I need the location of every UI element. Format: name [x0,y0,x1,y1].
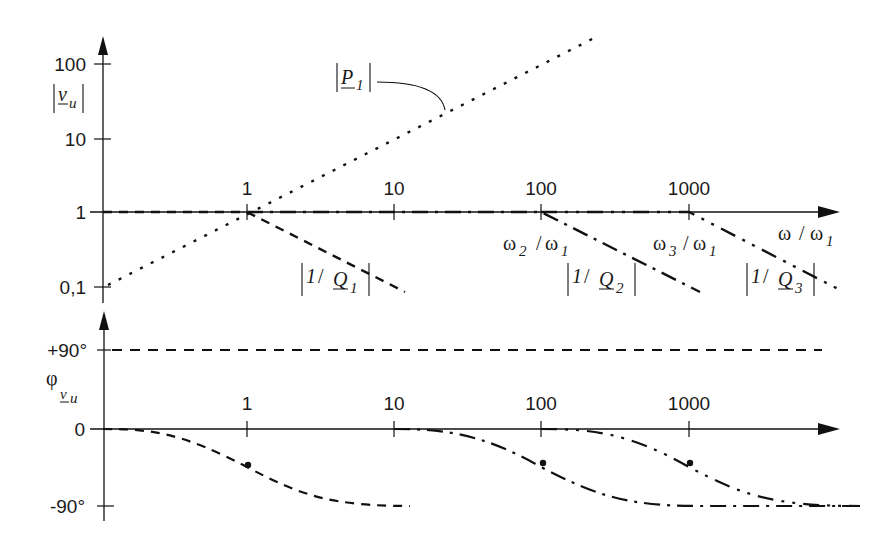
marker-minus45-at-1 [245,462,251,468]
phase-curve-1-over-Q3 [541,429,860,506]
svg-text:ω: ω [503,232,516,254]
svg-text:/: / [763,265,769,287]
phase-tick-label-0: 0 [74,419,85,440]
svg-text:1: 1 [751,265,761,287]
svg-text:1: 1 [350,280,358,296]
magnitude-y-axis-arrow-icon [98,36,108,55]
svg-text:Q: Q [333,268,348,290]
y-tick-label-10: 10 [65,129,86,150]
label-1-over-Q1: 1 / Q 1 [302,263,369,296]
label-omega2-over-omega1: ω 2 / ω 1 [503,232,569,259]
svg-text:2: 2 [519,243,527,259]
svg-text:ω: ω [778,222,791,244]
svg-text:1: 1 [709,243,717,259]
magnitude-x-axis-arrow-icon [818,206,840,218]
marker-minus45-at-1000 [687,460,693,466]
svg-text:Q: Q [778,268,793,290]
phase-x-tick-label-1000: 1000 [668,393,710,414]
svg-text:v: v [60,386,67,402]
phase-x-tick-label-100: 100 [525,393,557,414]
phase-y-label: φ v u [46,367,78,406]
svg-text:ω: ω [545,232,558,254]
svg-text:/: / [683,232,689,254]
svg-text:3: 3 [668,243,677,259]
x-axis-label-omega-over-omega1: ω / ω 1 [778,222,834,249]
label-P1: P 1 [337,63,445,110]
svg-text:P: P [340,66,353,88]
svg-text:u: u [70,390,78,406]
phase-y-axis-arrow-icon [99,311,109,330]
phase-tick-label-plus90: +90° [47,340,87,361]
x-tick-label-100: 100 [525,178,557,199]
label-1-over-Q3: 1 / Q 3 [747,263,814,296]
y-tick-label-0-1: 0,1 [60,277,86,298]
svg-text:3: 3 [794,280,803,296]
svg-text:ω: ω [693,232,706,254]
svg-text:2: 2 [616,280,624,296]
svg-text:1: 1 [572,265,582,287]
svg-text:/: / [799,222,805,244]
svg-text:1: 1 [356,77,364,93]
svg-text:u: u [69,95,77,111]
svg-text:ω: ω [810,222,823,244]
marker-minus45-at-100 [540,460,546,466]
y-tick-label-100: 100 [54,54,86,75]
phase-tick-label-minus90: -90° [50,496,85,517]
phase-x-tick-label-10: 10 [383,393,404,414]
magnitude-y-label: v u [54,83,83,113]
bode-diagram: 100 10 1 0,1 v u 1 10 100 1000 P [0,0,888,544]
phase-curve-1-over-Q1 [103,429,410,506]
svg-text:1: 1 [826,233,834,249]
x-tick-label-10: 10 [383,178,404,199]
label-omega3-over-omega1: ω 3 / ω 1 [653,232,717,259]
x-tick-label-1000: 1000 [668,178,710,199]
phase-x-tick-label-1: 1 [242,393,253,414]
phase-plot: +90° 0 -90° φ v u 1 10 100 1000 [46,311,860,521]
svg-text:φ: φ [46,367,58,390]
svg-text:Q: Q [599,268,614,290]
svg-text:v: v [58,83,67,105]
phase-curve-1-over-Q2 [394,429,860,506]
svg-text:/: / [318,265,324,287]
svg-text:/: / [536,232,542,254]
curve-1-over-Q1 [103,212,405,292]
svg-text:1: 1 [561,243,569,259]
x-tick-label-1: 1 [242,178,253,199]
svg-text:/: / [584,265,590,287]
magnitude-plot: 100 10 1 0,1 v u 1 10 100 1000 P [54,35,840,303]
phase-x-axis-arrow-icon [818,423,840,435]
svg-text:1: 1 [306,265,316,287]
svg-text:ω: ω [653,232,666,254]
label-1-over-Q2: 1 / Q 2 [568,263,635,296]
y-tick-label-1: 1 [75,202,86,223]
